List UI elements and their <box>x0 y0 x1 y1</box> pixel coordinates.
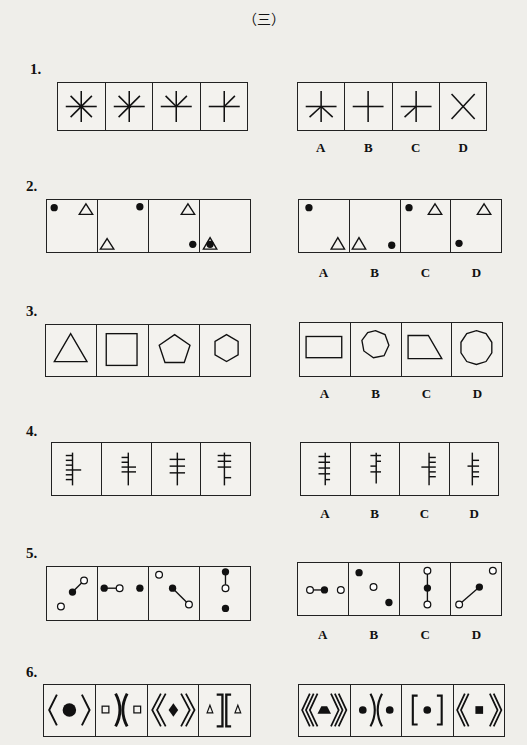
q3-option-a[interactable] <box>300 323 351 376</box>
q2-option-a[interactable] <box>299 200 350 252</box>
q4-sequence <box>51 442 251 496</box>
q5-figure-3 <box>149 567 200 620</box>
q2-options <box>298 199 502 253</box>
q5-figure-2 <box>98 567 149 620</box>
q1-option-c[interactable] <box>393 83 440 130</box>
q4-options <box>300 442 499 496</box>
option-label-b: B <box>348 627 399 643</box>
option-label-b: B <box>345 140 393 156</box>
option-label-c: C <box>400 627 451 643</box>
q1-options <box>297 82 487 131</box>
q2-figure-1 <box>47 200 98 252</box>
q6-figure-2 <box>96 685 148 736</box>
question-number-2: 2. <box>26 178 37 195</box>
q6-figure-4 <box>199 685 250 736</box>
option-label-d: D <box>451 265 502 281</box>
q4-option-labels: A B C D <box>300 506 499 522</box>
q1-sequence <box>57 82 248 131</box>
option-label-c: C <box>400 265 451 281</box>
question-number-6: 6. <box>26 664 37 681</box>
q4-option-a[interactable] <box>301 443 351 495</box>
option-label-d: D <box>452 386 503 402</box>
q1-option-b[interactable] <box>345 83 392 130</box>
q3-option-b[interactable] <box>351 323 402 376</box>
q4-figure-3 <box>152 443 202 495</box>
q6-figure-1 <box>44 685 96 736</box>
option-label-d: D <box>451 627 502 643</box>
option-label-c: C <box>401 386 452 402</box>
question-number-4: 4. <box>26 423 37 440</box>
q3-option-labels: A B C D <box>299 386 503 402</box>
option-label-a: A <box>299 386 350 402</box>
q3-option-d[interactable] <box>452 323 502 376</box>
q5-options <box>297 562 502 616</box>
q6-figure-3 <box>148 685 200 736</box>
q5-option-a[interactable] <box>298 563 349 615</box>
q5-option-c[interactable] <box>400 563 451 615</box>
question-number-1: 1. <box>30 61 41 78</box>
q3-figure-pentagon <box>149 325 200 376</box>
q1-figure-4 <box>201 83 248 130</box>
option-label-b: B <box>349 265 400 281</box>
q3-options <box>299 322 503 377</box>
q1-figure-1 <box>58 83 106 130</box>
page-title: （三） <box>0 8 527 28</box>
q6-option-a[interactable] <box>299 685 351 736</box>
q4-option-d[interactable] <box>450 443 499 495</box>
q6-option-d[interactable] <box>454 685 505 736</box>
q2-figure-2 <box>98 200 149 252</box>
q4-figure-2 <box>102 443 152 495</box>
question-number-5: 5. <box>26 545 37 562</box>
q4-option-b[interactable] <box>351 443 401 495</box>
option-label-c: C <box>392 140 440 156</box>
q2-sequence <box>46 199 251 253</box>
q4-option-c[interactable] <box>400 443 450 495</box>
q1-figure-3 <box>153 83 201 130</box>
q3-sequence <box>45 324 251 377</box>
q2-option-labels: A B C D <box>298 265 502 281</box>
option-label-a: A <box>300 506 350 522</box>
q5-option-d[interactable] <box>451 563 501 615</box>
q3-option-c[interactable] <box>402 323 453 376</box>
q1-option-d[interactable] <box>440 83 486 130</box>
q6-options <box>298 684 505 737</box>
q6-sequence <box>43 684 251 737</box>
option-label-a: A <box>297 140 345 156</box>
q3-figure-triangle <box>46 325 97 376</box>
q6-option-c[interactable] <box>402 685 454 736</box>
q1-figure-2 <box>106 83 154 130</box>
q2-option-b[interactable] <box>350 200 401 252</box>
q1-option-a[interactable] <box>298 83 345 130</box>
q5-figure-1 <box>47 567 98 620</box>
q2-option-c[interactable] <box>401 200 452 252</box>
q2-option-d[interactable] <box>451 200 501 252</box>
q3-figure-square <box>97 325 148 376</box>
option-label-d: D <box>440 140 488 156</box>
option-label-b: B <box>350 506 400 522</box>
q4-figure-4 <box>201 443 250 495</box>
q6-option-b[interactable] <box>351 685 403 736</box>
q1-option-labels: A B C D <box>297 140 487 156</box>
q5-figure-4 <box>200 567 250 620</box>
q4-figure-1 <box>52 443 102 495</box>
option-label-b: B <box>350 386 401 402</box>
question-number-3: 3. <box>26 303 37 320</box>
q2-figure-4 <box>200 200 250 252</box>
option-label-a: A <box>297 627 348 643</box>
q5-option-labels: A B C D <box>297 627 502 643</box>
q3-figure-hexagon <box>200 325 250 376</box>
option-label-a: A <box>298 265 349 281</box>
q2-figure-3 <box>149 200 200 252</box>
option-label-c: C <box>400 506 450 522</box>
option-label-d: D <box>449 506 499 522</box>
q5-sequence <box>46 566 251 621</box>
q5-option-b[interactable] <box>349 563 400 615</box>
